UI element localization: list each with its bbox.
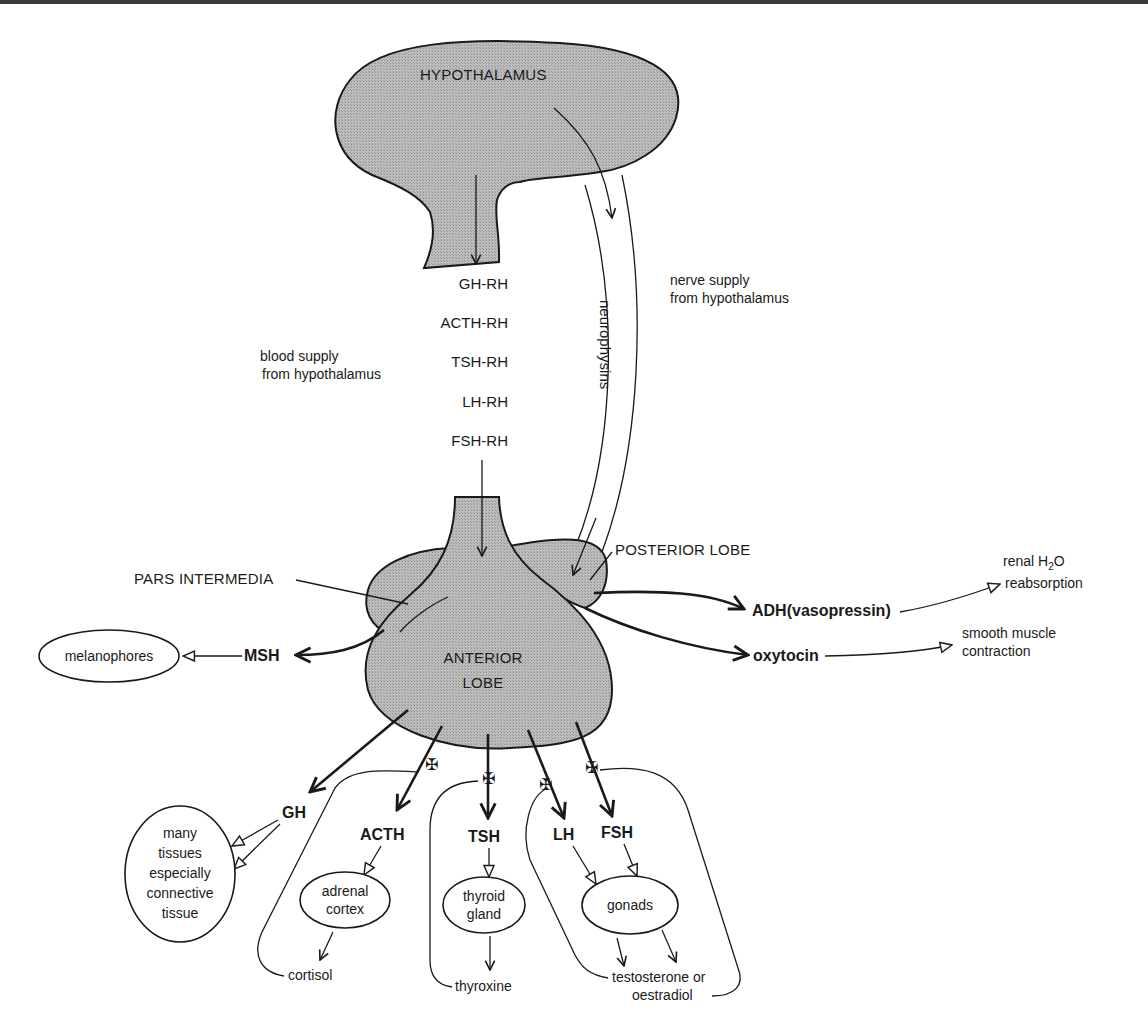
fsh-label: FSH: [601, 824, 633, 841]
svg-text:many: many: [163, 825, 197, 841]
sex-steroids-label-line2: oestradiol: [632, 987, 693, 1003]
svg-text:gland: gland: [467, 906, 501, 922]
posterior-lobe-label: POSTERIOR LOBE: [615, 541, 750, 558]
svg-text:gonads: gonads: [607, 897, 653, 913]
anterior-lobe: ANTERIOR LOBE: [366, 497, 612, 748]
svg-text:renal H2O: renal H2O: [1003, 553, 1065, 572]
lh-label: LH: [553, 826, 574, 843]
svg-text:blood supply: blood supply: [260, 348, 339, 364]
svg-text:melanophores: melanophores: [65, 648, 154, 664]
hypothalamus-label: HYPOTHALAMUS: [420, 66, 547, 83]
gh-effect-arrow-2: [234, 824, 280, 869]
sex-steroids-label-line1: testosterone or: [612, 969, 706, 985]
gonad-output-arrow-2: [662, 930, 676, 962]
nerve-supply-label: nerve supply from hypothalamus: [670, 272, 789, 306]
releasing-hormone-gh-rh: GH-RH: [459, 275, 508, 292]
tsh-inhibition-cross: ✠: [482, 770, 495, 787]
releasing-hormone-fsh-rh: FSH-RH: [451, 432, 508, 449]
many-tissues-node: many tissues especially connective tissu…: [125, 806, 235, 942]
svg-text:tissue: tissue: [162, 905, 199, 921]
svg-text:tissues: tissues: [158, 845, 202, 861]
neurophysins-tract: neurophysins: [575, 175, 637, 552]
acth-label: ACTH: [360, 826, 404, 843]
gh-label: GH: [282, 804, 306, 821]
releasing-hormone-acth-rh: ACTH-RH: [441, 314, 509, 331]
svg-text:thyroid: thyroid: [463, 888, 505, 904]
fsh-inhibition-cross: ✠: [585, 759, 598, 776]
releasing-hormone-lh-rh: LH-RH: [462, 393, 508, 410]
svg-text:nerve supply: nerve supply: [670, 272, 749, 288]
oxytocin-effect-arrow: [825, 645, 952, 656]
msh-label: MSH: [244, 647, 280, 664]
blood-supply-label: blood supply from hypothalamus: [260, 348, 381, 382]
releasing-hormone-tsh-rh: TSH-RH: [451, 353, 508, 370]
melanophores-node: melanophores: [39, 630, 179, 682]
pars-intermedia-label: PARS INTERMEDIA: [134, 570, 273, 587]
gonad-output-arrow-1: [617, 938, 624, 966]
svg-text:smooth muscle: smooth muscle: [962, 625, 1056, 641]
svg-text:connective: connective: [147, 885, 214, 901]
oxytocin-label: oxytocin: [753, 647, 819, 664]
anterior-lobe-label-line2: LOBE: [463, 674, 504, 691]
tsh-label: TSH: [468, 828, 500, 845]
adh-arrow: [594, 592, 744, 609]
cortisol-label: cortisol: [288, 967, 332, 983]
adh-effect-arrow: [900, 584, 1000, 612]
thyroxine-label: thyroxine: [455, 978, 512, 994]
svg-text:especially: especially: [149, 865, 210, 881]
svg-text:contraction: contraction: [962, 643, 1030, 659]
oxytocin-arrow: [585, 608, 748, 655]
lh-effect-arrow: [573, 846, 596, 884]
anterior-lobe-label-line1: ANTERIOR: [443, 649, 522, 666]
thyroid-gland-node: thyroid gland: [443, 877, 525, 933]
svg-text:reabsorption: reabsorption: [1005, 575, 1083, 591]
lh-inhibition-cross: ✠: [539, 776, 552, 793]
releasing-hormones-list: GH-RH ACTH-RH TSH-RH LH-RH FSH-RH: [441, 275, 509, 449]
svg-text:cortex: cortex: [326, 901, 364, 917]
svg-text:from hypothalamus: from hypothalamus: [262, 366, 381, 382]
acth-effect-arrow: [364, 846, 381, 875]
adh-effect-label: renal H2O reabsorption: [1003, 553, 1083, 591]
gonads-node: gonads: [582, 876, 678, 934]
acth-inhibition-cross: ✠: [425, 756, 438, 773]
gh-arrow: [310, 710, 408, 792]
adrenal-cortex-node: adrenal cortex: [300, 872, 390, 928]
adh-label: ADH(vasopressin): [752, 602, 891, 619]
cortisol-arrow: [320, 932, 333, 960]
oxytocin-effect-label: smooth muscle contraction: [962, 625, 1056, 659]
fsh-effect-arrow: [624, 844, 637, 876]
neurophysins-label: neurophysins: [597, 300, 614, 389]
svg-text:adrenal: adrenal: [322, 883, 369, 899]
pituitary-diagram: HYPOTHALAMUS neurophysins GH-RH ACTH-RH …: [0, 0, 1148, 1030]
svg-text:from hypothalamus: from hypothalamus: [670, 290, 789, 306]
